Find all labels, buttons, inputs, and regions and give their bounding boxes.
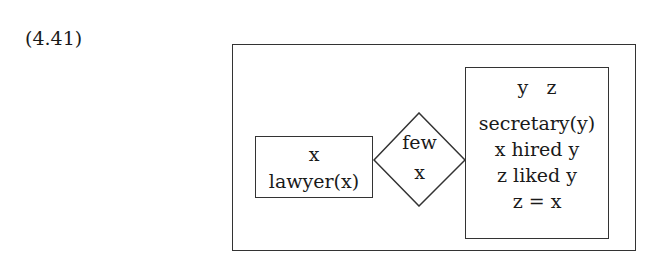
- example-number: (4.41): [25, 27, 82, 49]
- consequent-conditions: secretary(y) x hired y z liked y z = x: [466, 110, 608, 214]
- quantifier-variable: x: [373, 161, 466, 183]
- consequent-referent: z: [546, 76, 556, 98]
- consequent-condition: secretary(y): [466, 110, 608, 136]
- consequent-condition: z = x: [466, 188, 608, 214]
- consequent-condition: x hired y: [466, 136, 608, 162]
- quantifier-diamond: few x: [373, 112, 466, 207]
- consequent-condition: z liked y: [466, 162, 608, 188]
- consequent-referent: y: [518, 76, 529, 98]
- diamond-shape: [373, 112, 466, 207]
- consequent-box: y z secretary(y) x hired y z liked y z =…: [465, 67, 609, 239]
- antecedent-condition: lawyer(x): [256, 168, 372, 195]
- antecedent-referent: x: [256, 141, 372, 168]
- antecedent-box: x lawyer(x): [255, 136, 373, 198]
- consequent-referents: y z: [466, 74, 608, 100]
- quantifier-determiner: few: [373, 131, 466, 153]
